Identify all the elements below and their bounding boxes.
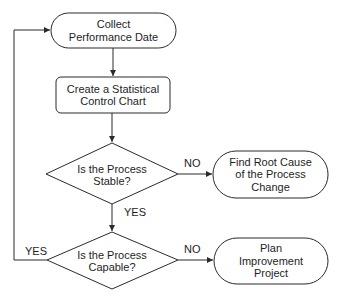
node-collect-label: Collect Performance Date xyxy=(51,13,176,48)
node-rootcause-line-1: Find Root Cause xyxy=(229,156,312,169)
node-plan-line-3: Project xyxy=(254,267,288,280)
node-capable-label: Is the Process Capable? xyxy=(62,246,162,276)
node-plan-line-1: Plan xyxy=(260,242,282,255)
node-rootcause-label: Find Root Cause of the Process Change xyxy=(213,151,328,198)
edge-label-capable-no: NO xyxy=(184,243,201,255)
node-rootcause-line-3: Change xyxy=(251,181,290,194)
node-plan-line-2: Improvement xyxy=(239,255,303,268)
node-stable-line-2: Stable? xyxy=(93,175,130,188)
node-plan-label: Plan Improvement Project xyxy=(214,238,328,284)
node-stable-line-1: Is the Process xyxy=(77,163,147,176)
node-stable-label: Is the Process Stable? xyxy=(62,160,162,190)
node-collect-line-1: Collect xyxy=(97,18,131,31)
edge-label-stable-no: NO xyxy=(184,157,201,169)
node-capable-line-2: Capable? xyxy=(88,261,135,274)
flowchart-canvas: Collect Performance Date Create a Statis… xyxy=(0,0,338,300)
node-chart-line-1: Create a Statistical xyxy=(67,83,159,96)
node-chart-line-2: Control Chart xyxy=(80,95,145,108)
node-collect-line-2: Performance Date xyxy=(69,31,158,44)
edge-label-capable-yes: YES xyxy=(25,245,47,257)
node-chart-label: Create a Statistical Control Chart xyxy=(56,77,170,113)
edge-label-stable-yes: YES xyxy=(124,206,146,218)
edge-capable-collect-loop xyxy=(14,30,50,260)
node-capable-line-1: Is the Process xyxy=(77,249,147,262)
node-rootcause-line-2: of the Process xyxy=(235,168,305,181)
